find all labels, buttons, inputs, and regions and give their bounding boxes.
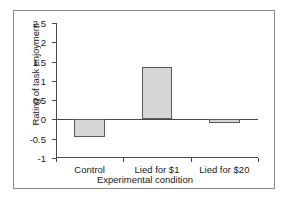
y-tick: 0 [52, 119, 56, 120]
y-tick-label: -0.5 [30, 133, 46, 144]
y-tick: 1.5 [52, 62, 56, 63]
y-tick: 0.5 [52, 100, 56, 101]
y-axis-title: Rating of task enjoyment [30, 10, 41, 140]
y-tick-label: -1 [38, 153, 46, 164]
y-tick-label: 0.5 [33, 95, 46, 106]
y-tick-label: 2 [41, 37, 46, 48]
plot-area: 2.521.510.50-0.5-1 ControlLied for $1Lie… [56, 23, 258, 158]
y-tick: 2 [52, 42, 56, 43]
y-tick: 2.5 [52, 23, 56, 24]
bar [209, 119, 240, 122]
x-tick [258, 158, 259, 162]
bar [74, 119, 105, 136]
y-tick: -0.5 [52, 139, 56, 140]
y-tick-label: 2.5 [33, 18, 46, 29]
y-axis-line [56, 23, 57, 158]
y-tick: 1 [52, 81, 56, 82]
y-tick-label: 1 [41, 75, 46, 86]
x-axis-line [56, 157, 258, 158]
x-axis-title: Experimental condition [14, 174, 276, 185]
y-tick-label: 1.5 [33, 56, 46, 67]
chart-figure: Rating of task enjoyment 2.521.510.50-0.… [13, 10, 275, 189]
x-tick [191, 158, 192, 162]
y-tick-label: 0 [41, 114, 46, 125]
x-tick [56, 158, 57, 162]
x-tick [123, 158, 124, 162]
bar [142, 67, 173, 119]
